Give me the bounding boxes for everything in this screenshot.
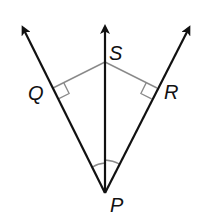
segment-SQ (53, 62, 105, 88)
geometry-diagram: S Q R P (0, 0, 197, 218)
point-label-q: Q (28, 83, 44, 103)
segment-SR (105, 62, 157, 88)
angle-arc-qps (92, 163, 105, 167)
point-label-s: S (109, 43, 122, 63)
point-label-r: R (164, 82, 178, 102)
angle-arc-spr (105, 160, 120, 164)
ray-PQ (23, 28, 105, 193)
diagram-svg (0, 0, 197, 218)
point-label-p: P (110, 195, 123, 215)
